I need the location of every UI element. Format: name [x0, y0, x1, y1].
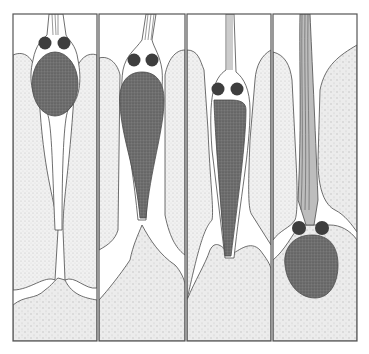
panel-1: [13, 14, 97, 341]
nucleolus: [58, 37, 71, 50]
nucleolus: [292, 221, 306, 235]
panel-2: [99, 14, 185, 341]
nucleolus: [128, 54, 141, 67]
figure-illustration: [0, 0, 369, 354]
nucleolus: [39, 37, 52, 50]
nucleolus: [212, 83, 225, 96]
panel-3: [187, 14, 271, 341]
panel-4: [273, 14, 357, 341]
nucleolus: [146, 54, 159, 67]
nucleus: [32, 52, 78, 116]
nucleolus: [315, 221, 329, 235]
nucleolus: [231, 83, 244, 96]
